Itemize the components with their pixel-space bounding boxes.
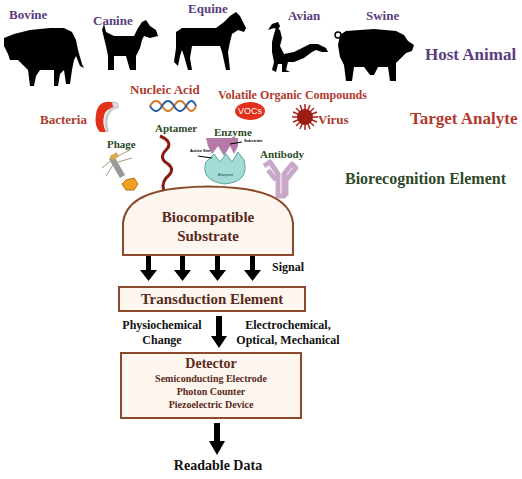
label-vocs: Volatile Organic Compounds	[218, 88, 367, 103]
signal-label: Signal	[272, 260, 304, 275]
output-arrow	[209, 423, 225, 455]
label-virus: Virus	[318, 112, 349, 128]
dna-icon	[148, 98, 196, 114]
transduction-modes-label: Electrochemical, Optical, Mechanical	[226, 318, 350, 348]
signal-arrow-1	[140, 256, 157, 281]
row-label-host-animal: Host Animal	[425, 45, 516, 65]
vocs-badge-text: VOCs	[238, 106, 262, 116]
enzyme-body-label: Enzyme	[218, 172, 234, 177]
detector-title: Detector	[122, 356, 300, 372]
label-aptamer: Aptamer	[155, 122, 197, 134]
substrate-label: Biocompatible Substrate	[120, 208, 296, 246]
enzyme-substrate-label: Substrate	[244, 138, 263, 143]
vocs-badge: VOCs	[235, 102, 265, 120]
detector-item: Piezoelectric Device	[122, 398, 300, 411]
dog-icon	[98, 20, 160, 72]
physiochemical-line1: Physiochemical	[108, 318, 216, 333]
readable-data-label: Readable Data	[120, 458, 316, 474]
label-bovine: Bovine	[9, 7, 47, 23]
detector-box: Detector Semiconducting Electrode Photon…	[120, 352, 302, 419]
transduction-arrow	[211, 316, 227, 348]
physiochemical-change-label: Physiochemical Change	[108, 318, 216, 348]
transduction-box: Transduction Element	[118, 286, 306, 312]
signal-arrows	[140, 256, 270, 282]
substrate-line1: Biocompatible	[120, 208, 296, 227]
signal-arrow-4	[244, 256, 261, 281]
detector-item: Semiconducting Electrode	[122, 372, 300, 385]
modes-line2: Optical, Mechanical	[226, 333, 350, 348]
substrate-line2: Substrate	[120, 227, 296, 246]
transduction-title: Transduction Element	[141, 291, 284, 307]
label-antibody: Antibody	[260, 148, 304, 160]
row-label-biorecognition: Biorecognition Element	[345, 170, 506, 188]
virus-icon	[292, 104, 318, 130]
detector-item: Photon Counter	[122, 385, 300, 398]
signal-arrow-3	[209, 256, 226, 281]
modes-line1: Electrochemical,	[226, 318, 350, 333]
signal-arrow-2	[174, 256, 191, 281]
pig-icon	[334, 27, 416, 83]
cow-icon	[0, 24, 90, 86]
label-swine: Swine	[366, 8, 399, 24]
label-bacteria: Bacteria	[40, 112, 87, 128]
enzyme-active-site-label: Active Site	[190, 148, 211, 153]
label-nucleic-acid: Nucleic Acid	[130, 82, 200, 98]
physiochemical-line2: Change	[108, 333, 216, 348]
horse-icon	[172, 12, 252, 74]
enzyme-icon: Substrate Active Site Enzyme	[190, 134, 260, 186]
rooster-icon	[266, 22, 330, 74]
row-label-target-analyte: Target Analyte	[410, 109, 518, 129]
bacteria-icon	[92, 98, 122, 134]
